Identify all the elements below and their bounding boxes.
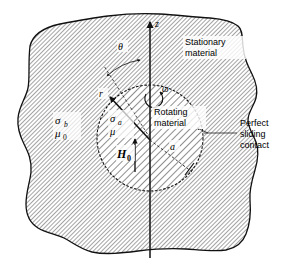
a-symbol: a <box>170 141 175 152</box>
inner-sigma-subscript: a <box>118 118 122 127</box>
inner-mu-symbol: μ <box>109 126 115 137</box>
a-label: a <box>169 140 180 152</box>
outer-mu-subscript: 0 <box>63 133 67 142</box>
sliding-contact-line1: Perfect <box>240 118 269 128</box>
stationary-material-label: Stationary material <box>183 36 246 59</box>
z-axis-label: z <box>154 18 159 29</box>
rotating-material-label: Rotating material <box>152 106 206 129</box>
stationary-material-line2: material <box>185 48 217 58</box>
rotating-material-line1: Rotating <box>154 107 188 117</box>
H0-subscript: 0 <box>127 154 131 163</box>
outer-material-properties: σ b μ 0 <box>53 112 81 142</box>
omega-symbol: ω <box>162 84 169 94</box>
H0-label: H 0 <box>116 145 135 163</box>
rotating-material-line2: material <box>154 118 186 128</box>
stationary-material-line1: Stationary <box>185 37 226 47</box>
sliding-contact-line3: contact <box>240 140 270 150</box>
sliding-contact-line2: sliding <box>240 129 266 139</box>
perfect-sliding-contact-label: Perfect sliding contact <box>240 118 270 150</box>
outer-sigma-subscript: b <box>64 120 68 129</box>
H0-symbol: H <box>116 147 127 161</box>
outer-mu-symbol: μ <box>54 127 61 139</box>
inner-material-properties: σ a μ <box>108 110 134 138</box>
figure-canvas: Stationary material Rotating material Pe… <box>0 0 293 267</box>
physics-diagram: Stationary material Rotating material Pe… <box>0 0 293 267</box>
r-symbol: r <box>99 89 103 99</box>
inner-sigma-symbol: σ <box>110 113 116 124</box>
r-label: r <box>98 88 108 99</box>
theta-symbol: θ <box>118 41 123 52</box>
theta-label: θ <box>117 40 128 52</box>
outer-sigma-symbol: σ <box>55 114 61 126</box>
